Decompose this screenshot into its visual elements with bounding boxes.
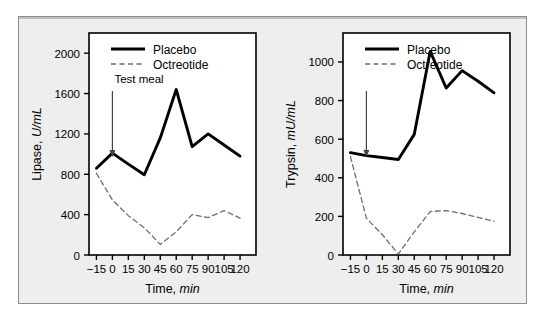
- legend-label-placebo: Placebo: [153, 43, 197, 57]
- x-tick-label: 45: [407, 263, 420, 275]
- y-axis-title-unit: mU/mL: [284, 100, 298, 140]
- y-tick-label: 800: [314, 95, 333, 107]
- y-tick-label: 800: [61, 169, 80, 181]
- y-axis: 0400800120016002000: [54, 48, 89, 262]
- x-tick-label: 0: [109, 263, 115, 275]
- x-tick-label: 120: [484, 263, 503, 275]
- y-tick-label: 600: [314, 134, 333, 146]
- y-tick-label: 2000: [54, 48, 80, 60]
- y-axis-title-unit: U/mL: [30, 107, 44, 137]
- y-tick-label: 0: [74, 250, 80, 262]
- x-axis-title-main: Time,: [145, 282, 179, 296]
- x-tick-label: 75: [186, 263, 199, 275]
- x-axis-title: Time, min: [399, 282, 453, 296]
- x-axis-title: Time, min: [145, 282, 199, 296]
- x-tick-label: 90: [202, 263, 215, 275]
- x-tick-label: −15: [87, 263, 107, 275]
- y-tick-label: 200: [314, 211, 333, 223]
- y-axis-title-main: Lipase,: [30, 137, 44, 181]
- y-axis-title: Trypsin, mU/mL: [284, 100, 298, 188]
- x-tick-label: 30: [138, 263, 151, 275]
- legend-label-octreotide: Octreotide: [407, 58, 463, 72]
- y-tick-label: 400: [314, 172, 333, 184]
- figure-panel: 0400800120016002000Lipase, U/mL−15015304…: [18, 16, 527, 304]
- y-axis-title-main: Trypsin,: [284, 140, 298, 187]
- x-axis: −150153045607590105120: [340, 255, 503, 275]
- legend-label-placebo: Placebo: [407, 43, 451, 57]
- y-tick-label: 0: [327, 250, 333, 262]
- x-axis-title-unit: min: [180, 282, 200, 296]
- trypsin-chart-svg: 02004006008001000Trypsin, mU/mL−15015304…: [273, 17, 527, 305]
- x-tick-label: 60: [423, 263, 436, 275]
- x-tick-label: 45: [154, 263, 167, 275]
- x-tick-label: 90: [455, 263, 468, 275]
- x-tick-label: 15: [122, 263, 135, 275]
- y-axis: 02004006008001000: [308, 56, 343, 261]
- y-tick-label: 400: [61, 209, 80, 221]
- y-axis-title: Lipase, U/mL: [30, 107, 44, 181]
- x-tick-label: 60: [170, 263, 183, 275]
- x-tick-label: 0: [363, 263, 369, 275]
- x-tick-label: 120: [230, 263, 249, 275]
- x-tick-label: −15: [340, 263, 360, 275]
- y-tick-label: 1000: [308, 56, 334, 68]
- x-axis: −150153045607590105120: [87, 255, 250, 275]
- legend-label-octreotide: Octreotide: [153, 58, 209, 72]
- lipase-chart-svg: 0400800120016002000Lipase, U/mL−15015304…: [19, 17, 273, 305]
- x-axis-title-unit: min: [433, 282, 453, 296]
- y-tick-label: 1200: [54, 128, 80, 140]
- x-axis-title-main: Time,: [399, 282, 433, 296]
- chart-panel-trypsin: 02004006008001000Trypsin, mU/mL−15015304…: [273, 17, 527, 303]
- chart-panel-lipase: 0400800120016002000Lipase, U/mL−15015304…: [19, 17, 273, 303]
- x-tick-label: 30: [391, 263, 404, 275]
- x-tick-label: 75: [439, 263, 452, 275]
- x-tick-label: 15: [375, 263, 388, 275]
- test-meal-label: Test meal: [114, 73, 163, 85]
- y-tick-label: 1600: [54, 88, 80, 100]
